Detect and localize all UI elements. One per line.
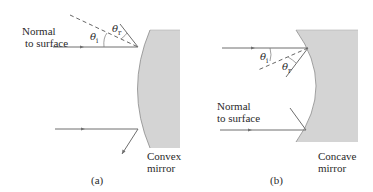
reflected-ray-lower xyxy=(290,108,306,130)
arrow-icon xyxy=(80,46,84,49)
angle-arc-i xyxy=(270,48,271,61)
panel-b-normal-label-line1: Normal xyxy=(217,100,251,112)
panel-a-theta-r: θr xyxy=(112,24,121,38)
arrow-icon xyxy=(251,47,255,50)
panel-a-mirror-label-line1: Convex xyxy=(147,150,181,162)
reflected-ray-lower xyxy=(122,129,138,154)
panel-a-normal-label-line1: Normal xyxy=(22,25,56,37)
panel-b-theta-r: θr xyxy=(282,62,291,76)
panel-b xyxy=(220,30,358,142)
panel-b-theta-i: θi xyxy=(260,52,268,66)
panel-a-mirror-label-line2: mirror xyxy=(147,162,175,174)
reflected-ray-upper xyxy=(120,24,138,47)
panel-b-mirror-label-line2: mirror xyxy=(318,162,346,174)
concave-mirror-shape xyxy=(296,30,358,142)
panel-a-theta-i: θi xyxy=(90,32,98,46)
arrow-icon xyxy=(81,128,85,131)
angle-arc-i xyxy=(104,33,107,47)
panel-a-caption: (a) xyxy=(91,174,103,186)
arrow-icon xyxy=(248,129,252,132)
angle-arc-r xyxy=(121,33,127,39)
panel-b-mirror-label-line1: Concave xyxy=(318,150,356,162)
panel-a-normal-label-line2: to surface xyxy=(25,37,68,49)
panel-b-normal-label-line2: to surface xyxy=(217,112,260,124)
panel-b-caption: (b) xyxy=(270,174,283,186)
